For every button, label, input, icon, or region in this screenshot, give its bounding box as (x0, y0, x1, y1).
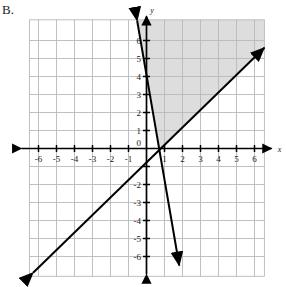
x-axis-label: x (277, 145, 282, 154)
y-tick-label: 2 (137, 108, 142, 118)
x-tick-label: 2 (180, 154, 185, 164)
graph-container: B. -6-5-4-3-2-1123456654321-2-3-4-5-60xy (0, 0, 286, 287)
x-tick-label: -4 (71, 154, 79, 164)
x-tick-label: -3 (89, 154, 97, 164)
y-tick-label: 1 (137, 126, 142, 136)
x-tick-label: -5 (53, 154, 61, 164)
coordinate-plane: -6-5-4-3-2-1123456654321-2-3-4-5-60xy (0, 0, 286, 287)
x-tick-label: -1 (125, 154, 133, 164)
y-tick-label: 4 (137, 72, 142, 82)
y-tick-label: -3 (134, 198, 142, 208)
x-tick-label: -6 (35, 154, 43, 164)
y-tick-label: -4 (134, 216, 142, 226)
x-tick-label: 1 (162, 154, 167, 164)
x-tick-label: 5 (234, 154, 239, 164)
y-tick-label: 3 (137, 90, 142, 100)
y-tick-label: -5 (134, 234, 142, 244)
x-tick-label: 3 (198, 154, 203, 164)
x-tick-label: 6 (252, 154, 257, 164)
y-axis-label: y (149, 6, 154, 15)
x-tick-label: -2 (107, 154, 115, 164)
origin-label: 0 (137, 138, 142, 148)
y-tick-label: -2 (134, 180, 142, 190)
x-tick-label: 4 (216, 154, 221, 164)
y-tick-label: 5 (137, 54, 142, 64)
y-tick-label: -6 (134, 252, 142, 262)
